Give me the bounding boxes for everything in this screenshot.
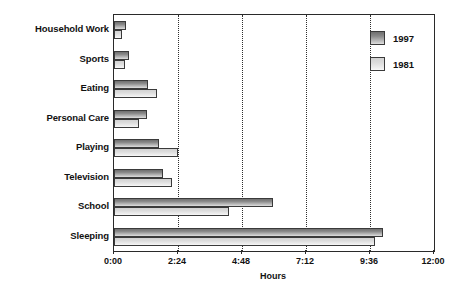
bar-personal-care-1981 xyxy=(114,119,139,128)
legend-swatch-1997 xyxy=(370,31,385,45)
y-axis-label-personal-care: Personal Care xyxy=(0,113,109,123)
gridline xyxy=(242,15,243,251)
bar-personal-care-1997 xyxy=(114,110,147,119)
y-axis-category-labels: Household WorkSportsEatingPersonal CareP… xyxy=(0,14,109,250)
y-axis-label-sports: Sports xyxy=(0,54,109,64)
bar-sports-1997 xyxy=(114,51,129,60)
bar-playing-1997 xyxy=(114,139,159,148)
x-axis-tick-label-7-12: 7:12 xyxy=(282,256,328,266)
legend-label-1997: 1997 xyxy=(393,33,414,44)
bar-household-work-1997 xyxy=(114,21,126,30)
bar-sleeping-1997 xyxy=(114,228,383,237)
x-axis-tick xyxy=(113,250,114,254)
x-axis-title: Hours xyxy=(113,271,433,281)
bar-eating-1981 xyxy=(114,89,157,98)
bar-television-1997 xyxy=(114,169,163,178)
x-axis-tick-label-4-48: 4:48 xyxy=(218,256,264,266)
legend-label-1981: 1981 xyxy=(393,59,414,70)
horizontal-bar-chart: Household WorkSportsEatingPersonal CareP… xyxy=(0,0,470,296)
legend-item-1981[interactable]: 1981 xyxy=(370,56,414,72)
bar-playing-1981 xyxy=(114,148,178,157)
x-axis-tick-label-12-00: 12:00 xyxy=(410,256,456,266)
y-axis-label-school: School xyxy=(0,201,109,211)
plot-area xyxy=(113,14,435,252)
x-axis-tick xyxy=(433,250,434,254)
y-axis-label-sleeping: Sleeping xyxy=(0,231,109,241)
bar-household-work-1981 xyxy=(114,30,122,39)
gridline xyxy=(370,15,371,251)
x-axis-tick xyxy=(305,250,306,254)
x-axis-tick-label-9-36: 9:36 xyxy=(346,256,392,266)
bar-television-1981 xyxy=(114,178,172,187)
x-axis-tick-label-0-00: 0:00 xyxy=(90,256,136,266)
y-axis-label-eating: Eating xyxy=(0,83,109,93)
x-axis-tick xyxy=(177,250,178,254)
x-axis-tick-label-2-24: 2:24 xyxy=(154,256,200,266)
y-axis-label-playing: Playing xyxy=(0,142,109,152)
bar-eating-1997 xyxy=(114,80,148,89)
bar-school-1997 xyxy=(114,198,273,207)
bar-school-1981 xyxy=(114,207,229,216)
gridline xyxy=(306,15,307,251)
bar-sleeping-1981 xyxy=(114,237,375,246)
x-axis-tick xyxy=(241,250,242,254)
legend-swatch-1981 xyxy=(370,57,385,71)
x-axis-tick xyxy=(369,250,370,254)
bar-sports-1981 xyxy=(114,60,125,69)
legend-item-1997[interactable]: 1997 xyxy=(370,30,414,46)
y-axis-label-household-work: Household Work xyxy=(0,24,109,34)
y-axis-label-television: Television xyxy=(0,172,109,182)
